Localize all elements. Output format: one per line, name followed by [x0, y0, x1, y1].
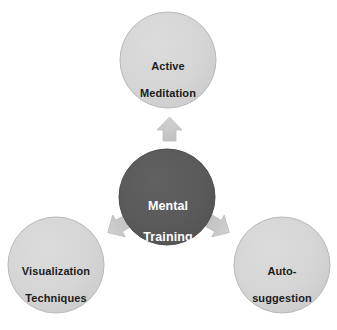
node-circle-mental-training[interactable]: [119, 149, 215, 245]
node-circle-active-meditation[interactable]: [120, 12, 216, 108]
node-circle-auto-suggestion[interactable]: [234, 217, 330, 313]
diagram-canvas-svg: [0, 0, 337, 330]
mental-training-diagram: Active Meditation Mental Training Visual…: [0, 0, 337, 330]
arrow-up-icon: [157, 117, 182, 141]
node-circle-visualization-techniques[interactable]: [8, 217, 104, 313]
